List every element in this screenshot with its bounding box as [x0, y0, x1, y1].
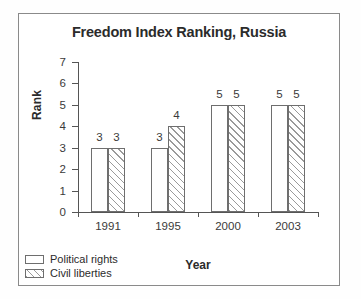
x-tick-mark — [318, 212, 319, 217]
y-tick-mark — [72, 191, 78, 192]
bar-1991-civil-liberties[interactable] — [108, 148, 125, 212]
x-axis-label-2003: 2003 — [275, 220, 301, 232]
y-tick-label: 7 — [60, 56, 66, 68]
y-tick-label: 5 — [60, 99, 66, 111]
x-tick-mark — [198, 212, 199, 217]
figure-container: Freedom Index Ranking, Russia Rank Year … — [0, 0, 361, 299]
x-axis-label-2000: 2000 — [215, 220, 241, 232]
bar-value-label: 5 — [293, 88, 299, 100]
x-tick-mark — [78, 212, 79, 217]
y-tick-mark — [72, 126, 78, 127]
y-tick-label: 1 — [60, 185, 66, 197]
y-tick-mark — [72, 105, 78, 106]
y-tick-label: 6 — [60, 77, 66, 89]
y-tick-label: 2 — [60, 163, 66, 175]
x-tick-mark — [258, 212, 259, 217]
chart-title: Freedom Index Ranking, Russia — [18, 24, 340, 40]
y-tick-mark — [72, 169, 78, 170]
legend-swatch-political-rights — [25, 255, 44, 264]
y-axis-title: Rank — [30, 90, 44, 120]
x-tick-mark — [138, 212, 139, 217]
bar-value-label: 3 — [156, 131, 162, 143]
bar-2000-civil-liberties[interactable] — [228, 105, 245, 212]
y-tick-label: 3 — [60, 142, 66, 154]
bar-value-label: 5 — [233, 88, 239, 100]
x-axis-label-1995: 1995 — [155, 220, 181, 232]
bar-1995-political-rights[interactable] — [151, 148, 168, 212]
y-axis-line — [78, 62, 79, 212]
bar-2003-political-rights[interactable] — [271, 105, 288, 212]
bar-2000-political-rights[interactable] — [211, 105, 228, 212]
bar-value-label: 5 — [216, 88, 222, 100]
y-tick-mark — [72, 62, 78, 63]
legend-label-political-rights: Political rights — [50, 253, 118, 265]
legend-swatch-civil-liberties — [25, 269, 44, 278]
bar-1995-civil-liberties[interactable] — [168, 126, 185, 212]
legend-item-political-rights[interactable]: Political rights — [25, 252, 118, 266]
y-tick-mark — [72, 148, 78, 149]
bar-value-label: 5 — [276, 88, 282, 100]
y-tick-label: 0 — [60, 206, 66, 218]
chart-legend: Political rights Civil liberties — [25, 252, 118, 280]
plot-area: 01234567 33345555 1991199520002003 — [78, 62, 318, 212]
bar-2003-civil-liberties[interactable] — [288, 105, 305, 212]
bar-value-label: 4 — [173, 109, 179, 121]
bar-1991-political-rights[interactable] — [91, 148, 108, 212]
legend-item-civil-liberties[interactable]: Civil liberties — [25, 266, 118, 280]
y-tick-mark — [72, 83, 78, 84]
y-tick-label: 4 — [60, 120, 66, 132]
legend-label-civil-liberties: Civil liberties — [50, 267, 112, 279]
x-axis-label-1991: 1991 — [95, 220, 121, 232]
bar-value-label: 3 — [96, 131, 102, 143]
bar-value-label: 3 — [113, 131, 119, 143]
